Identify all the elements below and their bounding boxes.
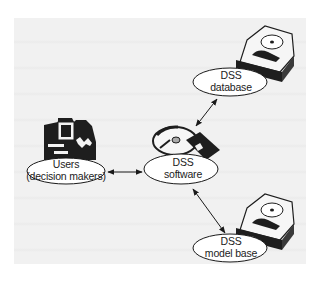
software-label-line1: DSS bbox=[173, 156, 194, 168]
workstation-icon bbox=[44, 118, 96, 160]
users-label-line2: (decision makers) bbox=[26, 170, 105, 182]
arrow-software-database bbox=[196, 99, 217, 126]
users-label-line1: Users bbox=[53, 158, 79, 170]
modelbase-label-line2: model base bbox=[205, 247, 258, 259]
dss-diagram: Users (decision makers) DSS software DSS… bbox=[0, 0, 322, 281]
database-label-line2: database bbox=[210, 81, 252, 93]
users-node: Users (decision makers) bbox=[26, 158, 105, 184]
modelbase-node: DSS model base bbox=[193, 234, 267, 262]
database-label-line1: DSS bbox=[221, 69, 242, 81]
software-node: DSS software bbox=[144, 154, 218, 184]
software-label-line2: software bbox=[164, 168, 202, 180]
arrow-software-modelbase bbox=[193, 189, 225, 233]
modelbase-label-line1: DSS bbox=[221, 235, 242, 247]
database-node: DSS database bbox=[193, 68, 267, 96]
